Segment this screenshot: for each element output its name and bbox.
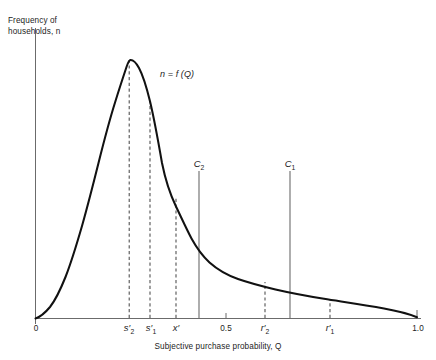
x-tick-label-0: 0 xyxy=(34,324,39,333)
marker-label-s1prime: s′1 xyxy=(146,322,156,335)
vline-sub-C1: 1 xyxy=(292,164,296,171)
vline-base-C2: C xyxy=(194,158,201,169)
x-axis-label: Subjective purchase probability, Q xyxy=(0,342,436,353)
frequency-curve xyxy=(36,60,418,319)
marker-sub-r1prime: 1 xyxy=(331,328,335,335)
curve-equation-text: n = f (Q) xyxy=(160,69,194,79)
x-axis-label-text: Subjective purchase probability, Q xyxy=(154,342,281,351)
marker-label-r2prime: r′2 xyxy=(261,322,270,335)
marker-label-r1prime: r′1 xyxy=(326,322,335,335)
chart-figure: Frequency of households, n Subjective pu… xyxy=(0,0,436,360)
vline-label-C1: C1 xyxy=(285,158,296,171)
marker-prime-xprime: ′ xyxy=(177,322,179,333)
vline-sub-C2: 2 xyxy=(201,164,205,171)
solid-vertical-lines xyxy=(199,171,290,318)
marker-sub-s2prime: 2 xyxy=(130,328,134,335)
x-tick-label-1-0: 1.0 xyxy=(412,324,423,333)
y-axis-label: Frequency of households, n xyxy=(8,16,60,37)
vline-label-C2: C2 xyxy=(194,158,205,171)
x-tick-label-0-5: 0.5 xyxy=(220,324,231,333)
y-axis-label-line1: Frequency of xyxy=(8,16,57,25)
marker-sub-r2prime: 2 xyxy=(266,328,270,335)
marker-label-s2prime: s′2 xyxy=(124,322,134,335)
vline-base-C1: C xyxy=(285,158,292,169)
frequency-distribution-chart xyxy=(0,0,436,360)
marker-sub-s1prime: 1 xyxy=(152,328,156,335)
marker-label-xprime: x′ xyxy=(173,322,180,333)
curve-equation-annotation: n = f (Q) xyxy=(160,69,194,81)
x-axis-ticks xyxy=(36,310,418,324)
dashed-marker-lines xyxy=(129,60,330,318)
y-axis-label-line2: households, n xyxy=(8,27,60,36)
